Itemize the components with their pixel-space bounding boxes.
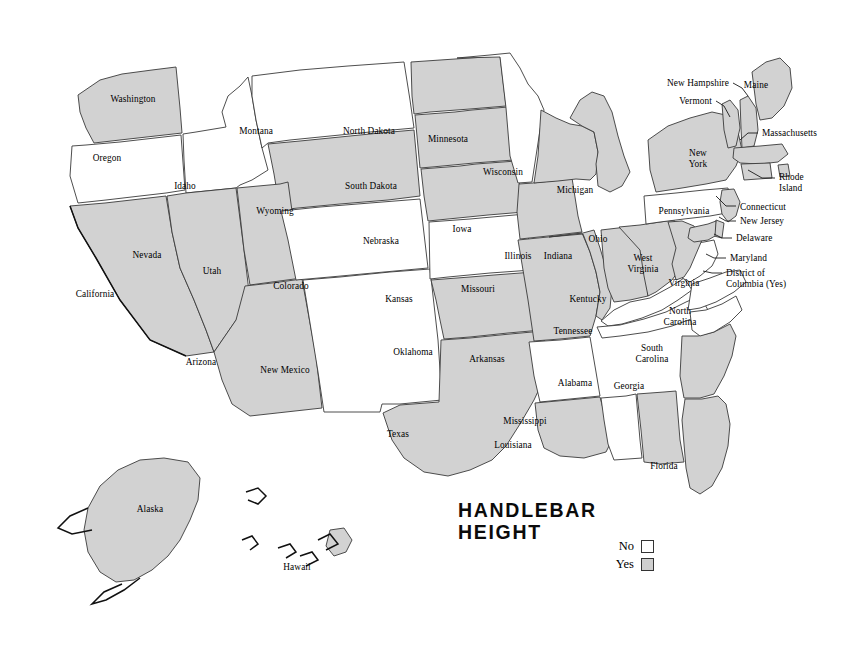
state-ga bbox=[680, 324, 736, 398]
state-label-ok: Oklahoma bbox=[393, 347, 433, 358]
leader-line-dc bbox=[703, 271, 722, 273]
map-title-line2: HEIGHT bbox=[458, 521, 597, 543]
state-label-va: Virginia bbox=[668, 278, 699, 289]
state-la bbox=[535, 397, 612, 458]
state-label-ia: Iowa bbox=[453, 224, 472, 235]
map-title-line1: HANDLEBAR bbox=[458, 499, 597, 521]
state-label-wa: Washington bbox=[110, 94, 155, 105]
state-label-id: Idaho bbox=[174, 181, 196, 192]
state-label-dc: District of Columbia (Yes) bbox=[726, 268, 786, 289]
state-label-pa: Pennsylvania bbox=[659, 206, 710, 217]
state-label-mt: Montana bbox=[239, 126, 273, 137]
state-label-fl: Florida bbox=[650, 461, 678, 472]
state-label-ar: Arkansas bbox=[469, 354, 504, 365]
state-label-ms: Mississippi bbox=[503, 416, 546, 427]
state-label-tn: Tennessee bbox=[554, 326, 593, 337]
state-label-ks: Kansas bbox=[385, 294, 412, 305]
legend-label-no: No bbox=[608, 539, 634, 554]
state-label-oh: Ohio bbox=[589, 234, 608, 245]
coastline-detail-4 bbox=[242, 536, 258, 550]
state-label-nv: Nevada bbox=[133, 250, 162, 261]
legend-row-yes: Yes bbox=[608, 555, 654, 573]
state-label-de: Delaware bbox=[736, 233, 772, 244]
state-label-ri: Rhode Island bbox=[779, 172, 804, 193]
state-label-ne: Nebraska bbox=[363, 236, 399, 247]
state-wy bbox=[268, 130, 420, 210]
legend-swatch-no bbox=[641, 540, 654, 553]
state-fl bbox=[682, 396, 730, 494]
coastline-detail-3 bbox=[246, 488, 266, 504]
state-label-nc: North Carolina bbox=[664, 306, 697, 327]
state-label-al: Alabama bbox=[558, 378, 592, 389]
state-label-mo: Missouri bbox=[461, 284, 495, 295]
legend-row-no: No bbox=[608, 537, 654, 555]
state-label-hi: Hawaii bbox=[283, 562, 310, 573]
state-label-tx: Texas bbox=[387, 429, 409, 440]
state-co bbox=[281, 199, 428, 280]
state-label-ct: Connecticut bbox=[740, 202, 786, 213]
state-label-ny: New York bbox=[689, 148, 708, 169]
state-wa bbox=[78, 67, 182, 143]
state-label-ma: Massachusetts bbox=[762, 128, 817, 139]
states-layer bbox=[58, 53, 792, 604]
map-legend: No Yes bbox=[608, 537, 654, 573]
state-label-nj: New Jersey bbox=[740, 216, 784, 227]
state-label-mn: Minnesota bbox=[428, 134, 468, 145]
state-label-sc: South Carolina bbox=[636, 343, 669, 364]
state-nj bbox=[720, 189, 740, 222]
state-al bbox=[637, 391, 684, 464]
state-label-ca: California bbox=[76, 289, 115, 300]
state-label-or: Oregon bbox=[93, 153, 121, 164]
state-label-la: Louisiana bbox=[494, 440, 532, 451]
state-hi bbox=[326, 528, 352, 556]
state-label-ga: Georgia bbox=[614, 381, 644, 392]
state-label-vt: Vermont bbox=[679, 96, 712, 107]
state-nd bbox=[411, 56, 506, 114]
state-nm bbox=[303, 269, 442, 412]
us-choropleth-map: WashingtonOregonIdahoMontanaWyomingCalif… bbox=[0, 0, 859, 652]
state-md bbox=[688, 221, 716, 242]
state-or bbox=[70, 135, 185, 203]
state-label-il: Illinois bbox=[504, 251, 531, 262]
state-label-nm: New Mexico bbox=[260, 365, 309, 376]
state-ks bbox=[429, 214, 532, 279]
state-label-md: Maryland bbox=[730, 253, 767, 264]
legend-swatch-yes bbox=[641, 558, 654, 571]
state-label-sd: South Dakota bbox=[345, 181, 397, 192]
state-label-ky: Kentucky bbox=[570, 294, 607, 305]
state-label-mi: Michigan bbox=[557, 185, 593, 196]
state-label-nd: North Dakota bbox=[343, 126, 395, 137]
state-ct bbox=[741, 163, 772, 180]
state-label-ak: Alaska bbox=[137, 504, 163, 515]
state-label-wv: West Virginia bbox=[627, 253, 658, 274]
map-title: HANDLEBAR HEIGHT bbox=[458, 499, 597, 543]
state-label-nh: New Hampshire bbox=[667, 78, 729, 89]
state-ak bbox=[84, 458, 200, 582]
coastline-detail-5 bbox=[278, 544, 296, 558]
state-label-me: Maine bbox=[744, 80, 768, 91]
state-label-ut: Utah bbox=[203, 266, 221, 277]
state-label-wy: Wyoming bbox=[256, 206, 293, 217]
state-label-in: Indiana bbox=[544, 251, 573, 262]
legend-label-yes: Yes bbox=[608, 557, 634, 572]
state-label-az: Arizona bbox=[186, 357, 217, 368]
state-nh bbox=[740, 96, 758, 148]
state-ma bbox=[733, 144, 788, 164]
state-label-co: Colorado bbox=[273, 281, 308, 292]
state-label-wi: Wisconsin bbox=[483, 167, 523, 178]
state-ar bbox=[529, 337, 600, 402]
